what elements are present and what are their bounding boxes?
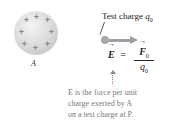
field-equation: E = F0 q0: [108, 49, 126, 60]
test-charge-text: Test charge: [102, 11, 145, 21]
caption-line-3: on a test charge at P.: [68, 109, 172, 120]
e-vector: E: [108, 49, 115, 60]
charged-sphere-a: + + + + + + + +: [14, 11, 58, 55]
caption-line-2: charge exerted by A: [68, 98, 172, 109]
fraction: F0 q0: [134, 46, 154, 74]
caption-line-1: E is the force per unit: [68, 87, 172, 98]
f-vector: F: [139, 46, 146, 57]
plus-charge-icon: +: [43, 40, 52, 49]
f-subscript: 0: [146, 53, 149, 59]
plus-charge-icon: +: [31, 44, 40, 53]
q-denominator-subscript: 0: [145, 68, 148, 74]
equals-sign: =: [120, 49, 126, 60]
numerator: F0: [134, 46, 154, 61]
plus-charge-icon: +: [43, 16, 52, 25]
test-charge-label: Test charge q0: [102, 11, 153, 23]
plus-charge-icon: +: [20, 40, 29, 49]
q-subscript: 0: [150, 17, 153, 23]
caption: E is the force per unit charge exerted b…: [68, 87, 172, 120]
body-label-a: A: [31, 59, 36, 68]
plus-charge-icon: +: [22, 16, 31, 25]
field-arrow-head-icon: [130, 36, 138, 44]
plus-charge-icon: +: [32, 13, 41, 22]
leader-line: [100, 22, 105, 35]
denominator: q0: [134, 61, 154, 74]
plus-charge-icon: +: [17, 28, 26, 37]
dotted-pointer-line: [112, 72, 114, 84]
plus-charge-icon: +: [47, 28, 56, 37]
